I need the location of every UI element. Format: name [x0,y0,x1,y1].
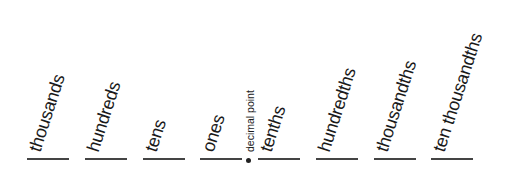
label-ones: ones [199,112,228,154]
blank-line-hundredths [316,158,358,160]
label-tens: tens [142,117,169,154]
label-decimal-point: decimal point [244,90,256,152]
blank-line-tens [143,158,185,160]
label-thousandths: thousandths [373,58,419,154]
decimal-point-dot [246,158,251,163]
blank-line-tenths [258,158,300,160]
label-hundreds: hundreds [84,79,124,154]
label-hundredths: hundredths [315,66,359,154]
blank-line-thousands [27,158,69,160]
label-tenths: tenths [257,104,289,154]
blank-line-ones [200,158,242,160]
label-thousands: thousands [26,72,68,154]
blank-line-ten-thousandths [431,158,473,160]
blank-line-hundreds [85,158,127,160]
label-ten-thousandths: ten thousandths [430,31,485,154]
blank-line-thousandths [374,158,416,160]
